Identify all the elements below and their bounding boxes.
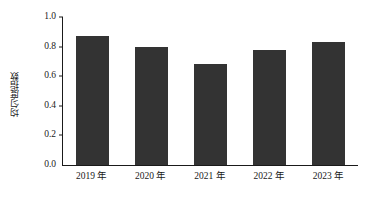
bar-slot <box>122 17 181 165</box>
x-axis-tick-label: 2021 年 <box>180 172 239 182</box>
x-axis-tick-label: 2023 年 <box>299 172 358 182</box>
bar <box>76 36 109 165</box>
bar-slot <box>181 17 240 165</box>
bar-slot <box>299 17 358 165</box>
plot-area: 0.00.20.40.60.81.0 <box>62 17 358 166</box>
x-axis-tick-labels: 2019 年2020 年2021 年2022 年2023 年 <box>62 172 358 182</box>
bar-slot <box>63 17 122 165</box>
bar <box>194 64 227 165</box>
bar <box>135 47 168 165</box>
y-axis-title: 均匀度指数 <box>8 50 22 140</box>
bar-series <box>63 17 358 165</box>
bar-slot <box>240 17 299 165</box>
x-axis-tick-label: 2019 年 <box>62 172 121 182</box>
bar <box>253 50 286 165</box>
bar-chart-figure: 均匀度指数 0.00.20.40.60.81.0 2019 年2020 年202… <box>0 0 379 206</box>
x-axis-tick-label: 2020 年 <box>121 172 180 182</box>
bar <box>312 42 345 165</box>
y-axis-tick-label: 0.0 <box>44 160 63 170</box>
x-axis-tick-label: 2022 年 <box>240 172 299 182</box>
